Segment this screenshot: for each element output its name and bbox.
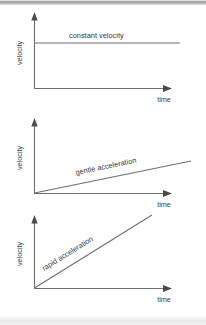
- x-axis-arrow-icon: [163, 190, 172, 197]
- y-axis-label: velocity: [15, 146, 24, 170]
- chart-rapid-acceleration-svg: velocity time rapid acceleration: [0, 209, 206, 314]
- chart-gentle-acceleration-svg: velocity time gentle acceleration: [0, 112, 206, 212]
- chart-constant-velocity: velocity time constant velocity: [0, 8, 206, 108]
- chart-gentle-acceleration: velocity time gentle acceleration: [0, 112, 206, 212]
- series-label-constant-velocity: constant velocity: [69, 31, 124, 40]
- y-axis-label: velocity: [15, 242, 24, 266]
- top-gray-band: [0, 0, 206, 5]
- y-axis-arrow-icon: [31, 118, 37, 127]
- x-axis-label: time: [157, 95, 171, 104]
- bottom-light-band: [0, 316, 206, 325]
- y-axis-label: velocity: [15, 41, 24, 65]
- figure-canvas: velocity time constant velocity velocity…: [0, 0, 206, 325]
- x-axis-label: time: [157, 200, 171, 209]
- x-axis-arrow-icon: [163, 285, 172, 292]
- y-axis-arrow-icon: [31, 12, 37, 21]
- y-axis-arrow-icon: [31, 215, 37, 224]
- x-axis-label: time: [157, 295, 171, 304]
- chart-rapid-acceleration: velocity time rapid acceleration: [0, 209, 206, 314]
- x-axis-arrow-icon: [163, 85, 172, 92]
- series-line-rapid-acceleration: [35, 215, 153, 288]
- chart-constant-velocity-svg: velocity time constant velocity: [0, 8, 206, 108]
